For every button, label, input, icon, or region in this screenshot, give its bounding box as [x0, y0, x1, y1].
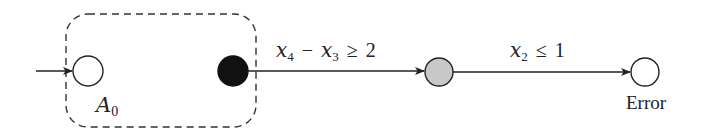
- automaton-diagram: x4−x3≥2 x2≤1 Error A0: [0, 0, 701, 132]
- state-initial: [73, 56, 103, 86]
- guard-label-2: x2≤1: [510, 38, 565, 64]
- state-mid-gray: [425, 58, 453, 86]
- guard-label-1: x4−x3≥2: [276, 38, 376, 64]
- state-error: [631, 58, 659, 86]
- group-label-a0: A0: [94, 93, 118, 119]
- state-exit-black: [218, 56, 248, 86]
- error-state-label: Error: [626, 92, 667, 113]
